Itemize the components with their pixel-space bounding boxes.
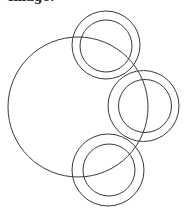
ring-top-outer <box>72 11 140 79</box>
ring-top-inner <box>80 20 132 72</box>
circle-ring-diagram <box>0 0 184 210</box>
ring-top <box>72 11 140 79</box>
large-circle <box>8 37 148 177</box>
